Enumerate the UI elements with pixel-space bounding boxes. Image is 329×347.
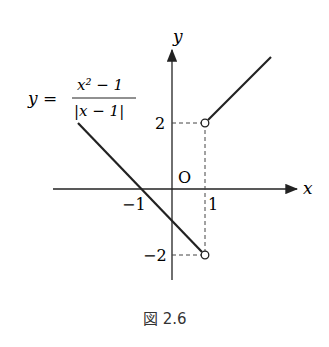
- graph: y x O −1 1 2 −2 y = x² − 1 |x − 1| 図 2.6: [0, 0, 329, 347]
- figure-caption: 図 2.6: [143, 310, 187, 328]
- open-point: [201, 119, 209, 127]
- tick-y-2: 2: [155, 114, 165, 133]
- open-point: [201, 251, 209, 259]
- equation-numerator: x² − 1: [77, 76, 123, 94]
- equation-lhs: y =: [27, 88, 57, 108]
- y-label: y: [172, 26, 183, 46]
- left-branch: [78, 123, 202, 252]
- origin-label: O: [178, 168, 191, 187]
- right-branch: [208, 57, 271, 120]
- tick-y-neg2: −2: [143, 246, 167, 265]
- tick-x-neg1: −1: [122, 195, 146, 214]
- tick-x-1: 1: [208, 195, 218, 214]
- equation-denominator: |x − 1|: [74, 102, 124, 120]
- x-label: x: [303, 178, 313, 198]
